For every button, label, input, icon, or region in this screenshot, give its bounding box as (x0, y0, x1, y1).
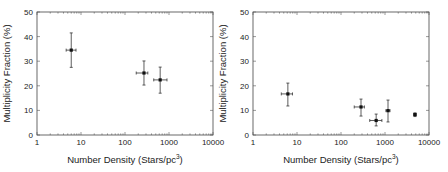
y-tick-label: 30 (240, 57, 249, 66)
y-tick-label: 10 (240, 106, 249, 115)
y-tick-label: 0 (29, 131, 34, 140)
y-tick-label: 30 (24, 57, 33, 66)
x-tick-label: 1000 (376, 138, 394, 147)
x-tick-label: 10 (77, 138, 86, 147)
x-tick-label: 100 (334, 138, 348, 147)
x-tick-label: 1 (35, 138, 40, 147)
y-tick-label: 50 (240, 8, 249, 17)
x-tick-label: 10000 (202, 138, 225, 147)
x-tick-label: 1000 (160, 138, 178, 147)
x-tick-label: 10000 (418, 138, 441, 147)
x-tick-label: 1 (251, 138, 256, 147)
plot-frame (37, 12, 213, 135)
y-axis-label: Multiplicity Fraction (%) (1, 24, 12, 122)
y-tick-label: 50 (24, 8, 33, 17)
y-tick-label: 10 (24, 106, 33, 115)
x-axis-label: Number Density (Stars/pc3) (283, 153, 399, 165)
y-tick-label: 40 (24, 33, 33, 42)
y-axis-label: Multiplicity Fraction (%) (217, 24, 228, 122)
left-panel-plot: 11010010001000001020304050Number Density… (1, 8, 225, 165)
x-axis-label: Number Density (Stars/pc3) (67, 153, 183, 165)
data-point (386, 100, 390, 122)
data-point (370, 114, 382, 126)
y-tick-label: 0 (245, 131, 250, 140)
data-point (413, 113, 416, 117)
data-point (354, 99, 364, 116)
chart-canvas: 11010010001000001020304050Number Density… (0, 0, 448, 172)
y-tick-label: 40 (240, 33, 249, 42)
right-panel-plot: 11010010001000001020304050Number Density… (217, 8, 441, 165)
x-tick-label: 100 (118, 138, 132, 147)
x-tick-label: 10 (293, 138, 302, 147)
plot-frame (253, 12, 429, 135)
y-tick-label: 20 (24, 82, 33, 91)
data-point (281, 83, 292, 106)
data-point (154, 67, 167, 93)
data-point (66, 33, 76, 67)
y-tick-label: 20 (240, 82, 249, 91)
data-point (136, 61, 148, 85)
